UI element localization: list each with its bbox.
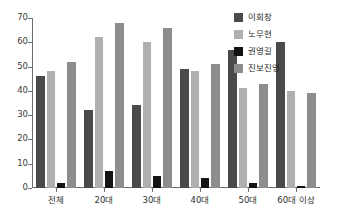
bar (57, 183, 66, 188)
bar-group: 전체 (36, 18, 75, 188)
y-axis-line (32, 18, 33, 188)
legend-swatch-icon (234, 30, 243, 39)
x-axis-label: 20대 (95, 195, 114, 206)
y-tick-label: 40 (17, 85, 28, 96)
bar (239, 88, 248, 188)
bar-chart: 010203040506070 전체20대30대40대50대60대 이상 이회창… (0, 0, 349, 217)
legend-swatch-icon (234, 64, 243, 73)
bar (95, 37, 104, 188)
y-tick-mark (28, 42, 32, 43)
bar (211, 64, 220, 188)
bar (297, 186, 306, 188)
bar (201, 178, 210, 188)
chart-legend: 이회창노무현권영길진보진영 (234, 9, 346, 77)
bar (249, 183, 258, 188)
x-tick-mark (104, 188, 105, 192)
legend-label: 노무현 (248, 29, 272, 40)
bar (143, 42, 152, 188)
x-axis-label: 40대 (191, 195, 210, 206)
y-tick-mark (28, 115, 32, 116)
legend-label: 권영길 (248, 46, 272, 57)
y-tick-mark (28, 67, 32, 68)
x-tick-mark (152, 188, 153, 192)
bar (84, 110, 93, 188)
x-tick-mark (296, 188, 297, 192)
x-axis-label: 60대 이상 (277, 195, 315, 206)
y-tick-label: 0 (23, 182, 28, 193)
bar (132, 105, 141, 188)
x-axis-label: 50대 (239, 195, 258, 206)
x-tick-mark (248, 188, 249, 192)
y-tick-label: 10 (17, 158, 28, 169)
legend-item[interactable]: 권영길 (234, 43, 346, 59)
y-tick-mark (28, 164, 32, 165)
y-tick-mark (28, 139, 32, 140)
y-tick-label: 60 (17, 36, 28, 47)
bar-group: 40대 (180, 18, 219, 188)
bar (115, 23, 124, 188)
bar-group: 30대 (132, 18, 171, 188)
x-axis-label: 30대 (143, 195, 162, 206)
y-tick-mark (28, 91, 32, 92)
legend-label: 진보진영 (248, 63, 280, 74)
x-tick-mark (56, 188, 57, 192)
y-tick-label: 30 (17, 109, 28, 120)
bar (307, 93, 316, 188)
x-axis-label: 전체 (48, 195, 64, 206)
bar (180, 69, 189, 188)
bar (259, 84, 268, 188)
bar (153, 176, 162, 188)
bar (36, 76, 45, 188)
bar (163, 28, 172, 188)
bar (191, 71, 200, 188)
legend-swatch-icon (234, 47, 243, 56)
y-tick-mark (28, 18, 32, 19)
y-tick-label: 50 (17, 61, 28, 72)
legend-item[interactable]: 노무현 (234, 26, 346, 42)
legend-swatch-icon (234, 13, 243, 22)
bar (47, 71, 56, 188)
x-tick-mark (200, 188, 201, 192)
legend-label: 이회창 (248, 12, 272, 23)
bar (105, 171, 114, 188)
y-tick-label: 20 (17, 133, 28, 144)
legend-item[interactable]: 진보진영 (234, 60, 346, 76)
bar (67, 62, 76, 188)
y-tick-mark (28, 188, 32, 189)
bar (287, 91, 296, 188)
legend-item[interactable]: 이회창 (234, 9, 346, 25)
y-tick-label: 70 (17, 12, 28, 23)
bar-group: 20대 (84, 18, 123, 188)
